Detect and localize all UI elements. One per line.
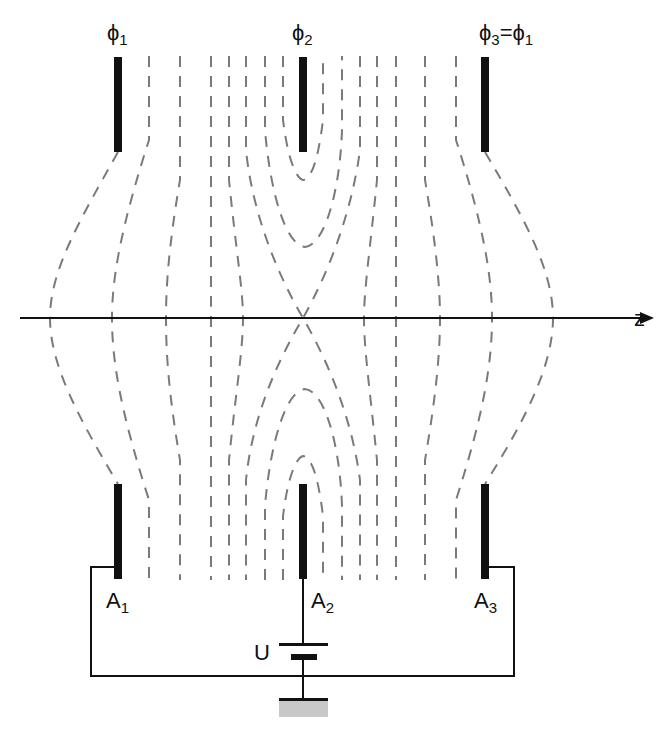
potential-label-phi1: ϕ1 [107, 22, 128, 47]
electrode-top-phi2 [299, 57, 307, 152]
phi-symbol: ϕ [292, 20, 304, 45]
electrode-top-phi3 [481, 57, 489, 152]
electrode-label-A3: A3 [474, 590, 497, 615]
electrode-A2 [299, 484, 307, 579]
voltage-label-U: U [254, 642, 270, 664]
electrode-subscript: 2 [326, 599, 334, 616]
equals-sign: = [500, 20, 513, 45]
ground-icon [279, 698, 328, 717]
electrode-A3 [481, 484, 489, 579]
axis-label-z: z [634, 308, 645, 330]
electrode-label-A2: A2 [311, 590, 334, 615]
phi-symbol: ϕ [513, 20, 525, 45]
potential-label-phi2: ϕ2 [292, 22, 313, 47]
electrode-label-A1: A1 [106, 590, 129, 615]
phi-subscript: 2 [304, 31, 312, 48]
phi-subscript: 3 [491, 31, 499, 48]
electrode-name: A [106, 588, 121, 613]
phi-subscript: 1 [525, 31, 533, 48]
phi-symbol: ϕ [479, 20, 491, 45]
circuit-wiring [91, 567, 514, 699]
phi-subscript: 1 [119, 31, 127, 48]
electrode-name: A [474, 588, 489, 613]
potential-label-phi3: ϕ3=ϕ1 [479, 22, 533, 47]
electrode-A1 [114, 484, 122, 579]
electrode-subscript: 3 [489, 599, 497, 616]
einzel-lens-diagram [0, 0, 656, 731]
phi-symbol: ϕ [107, 20, 119, 45]
electrode-name: A [311, 588, 326, 613]
battery-icon [279, 643, 328, 660]
electrode-top-phi1 [114, 57, 122, 152]
electrode-subscript: 1 [121, 599, 129, 616]
